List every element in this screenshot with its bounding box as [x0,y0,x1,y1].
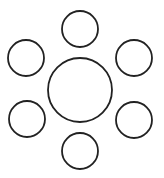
satellite-circle-lower-right [116,102,152,138]
satellite-circle-upper-left [8,40,44,76]
satellite-circle-top [62,11,98,47]
satellite-circle-bottom [62,133,98,169]
circle-cluster-diagram [0,0,164,178]
satellite-circle-upper-right [116,40,152,76]
diagram-canvas [0,0,164,178]
satellite-circle-lower-left [9,101,45,137]
center-circle [48,58,112,122]
